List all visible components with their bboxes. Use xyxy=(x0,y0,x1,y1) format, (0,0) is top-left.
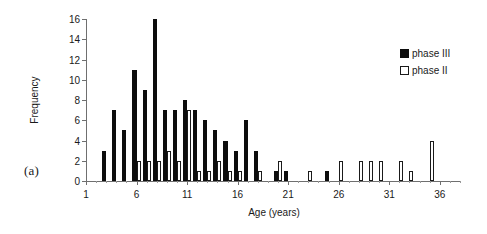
y-axis-tick-label: 0 xyxy=(74,176,80,187)
x-axis-minor-tick xyxy=(379,181,380,183)
histogram-bar xyxy=(369,161,373,181)
x-axis-minor-tick xyxy=(258,181,259,183)
histogram-bar xyxy=(339,161,343,181)
x-axis-tick-label: 16 xyxy=(232,189,243,200)
x-axis-tick xyxy=(187,181,188,185)
histogram-bar xyxy=(359,161,363,181)
histogram-bar xyxy=(228,171,232,181)
y-axis-tick xyxy=(82,80,86,81)
x-axis-minor-tick xyxy=(420,181,421,183)
hollow-square-icon xyxy=(400,66,409,75)
plot-area: 0246810121416 xyxy=(86,19,460,181)
x-axis-minor-tick xyxy=(430,181,431,183)
legend-item-phase-iii: phase III xyxy=(400,48,450,59)
histogram-bar xyxy=(409,171,413,181)
y-axis-tick xyxy=(82,60,86,61)
x-axis-tick-label: 1 xyxy=(83,189,89,200)
x-axis-line xyxy=(86,181,461,182)
histogram-bar xyxy=(122,130,126,181)
y-axis-tick xyxy=(82,39,86,40)
y-axis-tick-label: 12 xyxy=(69,54,80,65)
histogram-bar xyxy=(258,171,262,181)
x-axis-minor-tick xyxy=(278,181,279,183)
legend-item-phase-ii: phase II xyxy=(400,65,450,76)
x-axis-tick xyxy=(86,181,87,185)
histogram-bar xyxy=(137,161,141,181)
x-axis-minor-tick xyxy=(359,181,360,183)
histogram-bar xyxy=(167,151,171,181)
x-axis-minor-tick xyxy=(399,181,400,183)
x-axis-minor-tick xyxy=(106,181,107,183)
x-axis-minor-tick xyxy=(329,181,330,183)
y-axis-tick-label: 14 xyxy=(69,34,80,45)
y-axis-tick xyxy=(82,161,86,162)
x-axis-minor-tick xyxy=(207,181,208,183)
x-axis-minor-tick xyxy=(96,181,97,183)
histogram-bar xyxy=(112,110,116,181)
y-axis-tick xyxy=(82,100,86,101)
x-axis-minor-tick xyxy=(369,181,370,183)
x-axis-minor-tick xyxy=(126,181,127,183)
y-axis-tick xyxy=(82,19,86,20)
histogram-bar xyxy=(147,161,151,181)
x-axis-tick xyxy=(389,181,390,185)
x-axis-minor-tick xyxy=(167,181,168,183)
x-axis-minor-tick xyxy=(116,181,117,183)
x-axis-tick xyxy=(238,181,239,185)
filled-square-icon xyxy=(400,49,409,58)
x-axis-minor-tick xyxy=(450,181,451,183)
x-axis-tick-label: 31 xyxy=(384,189,395,200)
panel-label: (a) xyxy=(24,163,39,179)
x-axis-minor-tick xyxy=(460,181,461,183)
histogram-bar xyxy=(187,110,191,181)
x-axis-tick xyxy=(288,181,289,185)
y-axis-tick-label: 6 xyxy=(74,115,80,126)
histogram-bar xyxy=(430,141,434,182)
x-axis-minor-tick xyxy=(349,181,350,183)
x-axis-tick xyxy=(137,181,138,185)
x-axis-tick-label: 21 xyxy=(283,189,294,200)
x-axis-minor-tick xyxy=(298,181,299,183)
histogram-bar xyxy=(157,161,161,181)
x-axis-minor-tick xyxy=(409,181,410,183)
x-axis-tick-label: 11 xyxy=(182,189,192,200)
x-axis-tick-label: 36 xyxy=(434,189,445,200)
x-axis-minor-tick xyxy=(268,181,269,183)
x-axis-minor-tick xyxy=(177,181,178,183)
histogram-bar xyxy=(284,171,288,181)
x-axis-minor-tick xyxy=(197,181,198,183)
y-axis-tick-label: 8 xyxy=(74,95,80,106)
histogram-bar xyxy=(197,171,201,181)
x-axis-minor-tick xyxy=(228,181,229,183)
x-axis-tick-label: 6 xyxy=(134,189,140,200)
y-axis-tick xyxy=(82,141,86,142)
histogram-bar xyxy=(217,161,221,181)
x-axis-minor-tick xyxy=(248,181,249,183)
legend: phase III phase II xyxy=(400,48,450,76)
histogram-bar xyxy=(177,161,181,181)
histogram-bar xyxy=(102,151,106,181)
y-axis-tick-label: 10 xyxy=(69,74,80,85)
x-axis-tick-label: 26 xyxy=(333,189,344,200)
histogram-bar xyxy=(399,161,403,181)
legend-label: phase III xyxy=(412,48,450,59)
histogram-bar xyxy=(238,171,242,181)
x-axis-minor-tick xyxy=(318,181,319,183)
x-axis-minor-tick xyxy=(147,181,148,183)
histogram-bar xyxy=(379,161,383,181)
histogram-bar xyxy=(308,171,312,181)
y-axis-tick-label: 16 xyxy=(69,14,80,25)
histogram-bar xyxy=(153,19,157,181)
histogram-bar xyxy=(325,171,329,181)
x-axis-minor-tick xyxy=(157,181,158,183)
y-axis-tick-label: 2 xyxy=(74,155,80,166)
x-axis-tick xyxy=(339,181,340,185)
y-axis-tick xyxy=(82,120,86,121)
x-axis-minor-tick xyxy=(217,181,218,183)
y-axis-tick-label: 4 xyxy=(74,135,80,146)
figure-panel: (a) Frequency Age (years) 0246810121416 … xyxy=(0,0,487,234)
histogram-bar xyxy=(244,120,248,181)
x-axis-tick xyxy=(440,181,441,185)
histogram-bar xyxy=(278,161,282,181)
x-axis-minor-tick xyxy=(308,181,309,183)
